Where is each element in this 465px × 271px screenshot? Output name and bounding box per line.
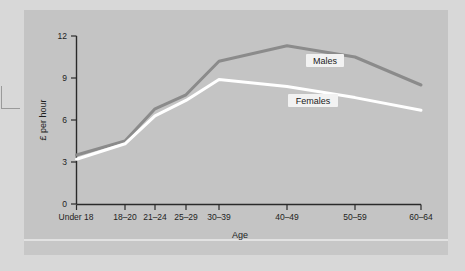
y-axis-title: £ per hour: [38, 99, 48, 140]
y-axis-ticks: [71, 36, 77, 204]
x-tick-label-60-64: 60–64: [409, 212, 433, 222]
series-label-females-text: Females: [296, 96, 331, 106]
y-tick-label-3: 3: [62, 157, 67, 167]
series-label-females: Females: [288, 94, 338, 107]
x-axis-title: Age: [232, 230, 248, 240]
x-tick-label-21-24: 21–24: [143, 212, 167, 222]
series-label-males-text: Males: [313, 56, 338, 66]
x-tick-label-30-39: 30–39: [207, 212, 231, 222]
x-tick-label-18-20: 18–20: [113, 212, 137, 222]
y-tick-label-9: 9: [62, 73, 67, 83]
y-tick-label-6: 6: [62, 115, 67, 125]
y-tick-label-12: 12: [58, 31, 68, 41]
x-tick-label-under-18: Under 18: [59, 212, 94, 222]
x-tick-label-50-59: 50–59: [343, 212, 367, 222]
y-tick-label-0: 0: [62, 199, 67, 209]
line-chart: 12 9 6 3 0 £ per hour Under 18 18–20 21–…: [0, 0, 465, 271]
series-label-males: Males: [306, 54, 344, 67]
x-axis-ticks: [77, 205, 422, 211]
series-line-females: [77, 79, 422, 159]
x-tick-label-25-29: 25–29: [174, 212, 198, 222]
x-tick-label-40-49: 40–49: [275, 212, 299, 222]
